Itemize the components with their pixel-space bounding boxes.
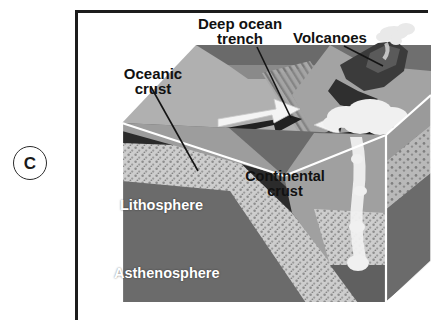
label-oceanic-crust: Oceanic crust: [110, 66, 196, 97]
label-lithosphere: Lithosphere: [120, 198, 203, 213]
front-cross-section: [118, 113, 398, 313]
figure-frame: Deep ocean trench Volcanoes Oceanic crus…: [75, 10, 428, 320]
label-volcanoes: Volcanoes: [293, 30, 393, 45]
label-continental-crust: Continental crust: [237, 169, 333, 199]
panel-letter-text: C: [24, 155, 36, 172]
panel-letter-badge: C: [13, 146, 47, 180]
label-deep-ocean-trench: Deep ocean trench: [187, 16, 293, 47]
label-asthenosphere: Asthenosphere: [114, 266, 220, 281]
